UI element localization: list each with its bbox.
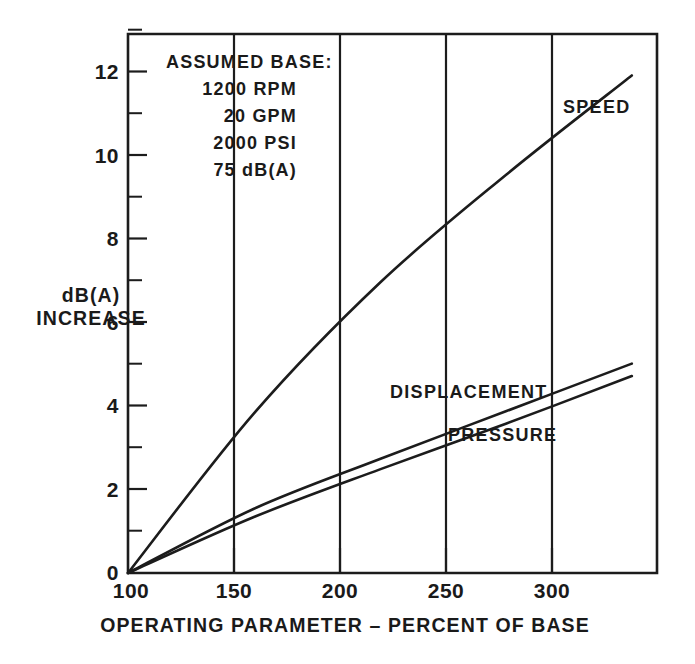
- x-tick-label-150: 150: [216, 579, 253, 602]
- data-series-layer: [128, 75, 632, 573]
- annotation-title: ASSUMED BASE:: [166, 52, 333, 72]
- x-tick-label-200: 200: [322, 579, 359, 602]
- x-axis-title: OPERATING PARAMETER – PERCENT OF BASE: [100, 614, 590, 636]
- annotation-line-3: 2000 PSI: [213, 133, 297, 153]
- x-tick-label-250: 250: [428, 579, 465, 602]
- y-axis-title-line1: dB(A): [62, 284, 121, 306]
- annotation-line-1: 1200 RPM: [202, 79, 297, 99]
- y-axis-minor-ticks: [128, 30, 142, 531]
- y-tick-label-8: 8: [107, 227, 119, 250]
- series-label-speed: SPEED: [563, 97, 631, 117]
- y-axis-title-line2: INCREASE: [36, 307, 146, 329]
- annotation-line-4: 75 dB(A): [213, 160, 297, 180]
- series-label-pressure: PRESSURE: [448, 425, 557, 445]
- y-tick-label-4: 4: [107, 394, 119, 417]
- x-axis-ticks: [234, 548, 552, 573]
- series-labels: SPEED DISPLACEMENT PRESSURE: [390, 97, 631, 445]
- annotation-line-2: 20 GPM: [224, 106, 297, 126]
- series-curve-speed: [128, 75, 632, 573]
- x-tick-label-300: 300: [534, 579, 571, 602]
- y-tick-label-2: 2: [107, 478, 119, 501]
- y-tick-label-10: 10: [95, 144, 119, 167]
- series-label-displacement: DISPLACEMENT: [390, 382, 548, 402]
- y-tick-label-12: 12: [95, 60, 119, 83]
- x-tick-label-100: 100: [113, 579, 150, 602]
- assumed-base-annotation: ASSUMED BASE: 1200 RPM 20 GPM 2000 PSI 7…: [166, 52, 333, 180]
- chart-container: 12 10 8 6 4 2 0 100 150 200 250 300 OPER…: [0, 0, 695, 664]
- noise-increase-line-chart: 12 10 8 6 4 2 0 100 150 200 250 300 OPER…: [0, 0, 695, 664]
- x-tick-labels: 100 150 200 250 300: [113, 579, 571, 602]
